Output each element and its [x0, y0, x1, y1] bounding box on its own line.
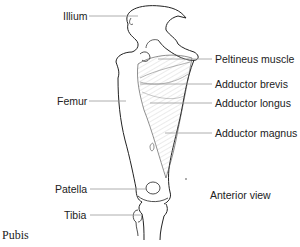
thigh-illustration [0, 0, 300, 247]
fibula-bone [133, 210, 142, 236]
label-adductor-longus: Adductor longus [215, 97, 291, 109]
label-illium: Illium [63, 10, 88, 22]
ilium-bone [127, 6, 198, 61]
label-patella: Patella [55, 183, 87, 195]
tibia-bone [139, 202, 167, 240]
label-adductor-brevis: Adductor brevis [215, 78, 288, 90]
label-adductor-magnus: Adductor magnus [215, 127, 297, 139]
anatomy-diagram: Illium Femur Patella Tibia Peltineus mus… [0, 0, 300, 247]
figure-caption: Pubis [2, 228, 29, 243]
patella-bone [146, 182, 160, 194]
label-tibia: Tibia [64, 209, 86, 221]
label-femur: Femur [57, 95, 87, 107]
label-peltineus-muscle: Peltineus muscle [215, 53, 294, 65]
adductor-muscles [137, 55, 192, 178]
view-label: Anterior view [210, 189, 271, 201]
